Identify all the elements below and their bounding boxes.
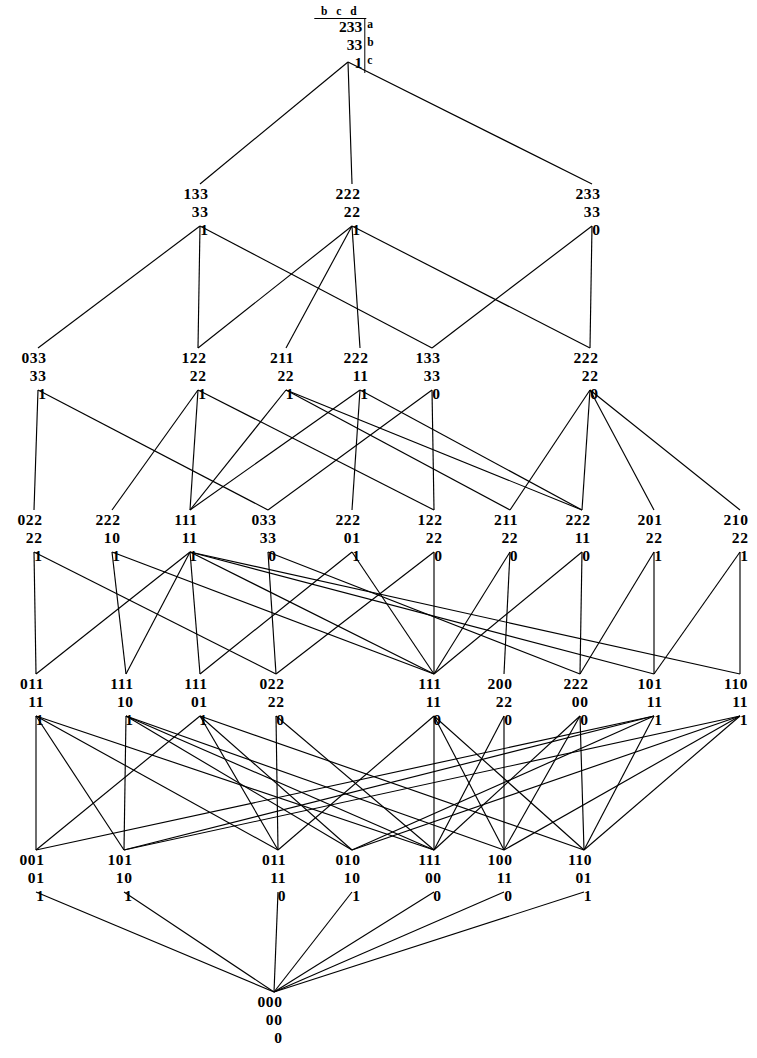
node-row-1: 22 [181, 368, 206, 386]
lattice-edge [112, 390, 198, 510]
node-row-1: 11 [343, 368, 368, 386]
node-matrix: 222221 [335, 186, 360, 240]
node-row-2: 0 [565, 548, 590, 566]
node-row-0: 111 [174, 512, 197, 530]
node-matrix: 022221 [17, 512, 42, 566]
node-row-2: 0 [251, 548, 276, 566]
node-row-1: 00 [257, 1012, 282, 1030]
lattice-edge [274, 892, 278, 992]
node-row-2: 1 [724, 712, 748, 730]
lattice-edge [286, 226, 352, 348]
node-row-2: 1 [343, 386, 368, 404]
lattice-edge [200, 716, 278, 850]
node-row-2: 0 [259, 712, 284, 730]
lattice-edge [348, 62, 592, 184]
node-row-0: 022 [17, 512, 42, 530]
node-row-1: 22 [270, 368, 294, 386]
matrix-column-header: b c d [314, 6, 366, 19]
node-row-2: 1 [19, 888, 44, 906]
lattice-edge [36, 716, 278, 850]
matrix-body: 233 33 1 a b c [314, 19, 373, 73]
lattice-edge [590, 226, 592, 348]
node-row-2: 1 [335, 888, 360, 906]
node-matrix: 010101 [335, 852, 360, 906]
node-row-1: 22 [17, 530, 42, 548]
node-row-2: 1 [107, 888, 132, 906]
lattice-edge [580, 552, 582, 674]
node-row-2: 1 [20, 712, 44, 730]
matrix-row-0: 233 [314, 19, 362, 37]
node-row-0: 222 [563, 676, 588, 694]
node-row-1: 33 [21, 368, 46, 386]
node-row-2: 0 [573, 386, 598, 404]
lattice-edge [360, 390, 582, 510]
lattice-edge [434, 552, 510, 674]
node-row-0: 222 [95, 512, 120, 530]
lattice-edge [36, 892, 274, 992]
node-row-1: 22 [487, 694, 512, 712]
lattice-edge [124, 716, 126, 850]
row-label-c: c [367, 55, 373, 73]
node-row-0: 101 [107, 852, 132, 870]
node-row-1: 11 [262, 870, 286, 888]
node-matrix: 222220 [573, 350, 598, 404]
node-row-2: 0 [494, 548, 518, 566]
lattice-edge [504, 716, 740, 850]
node-matrix: 033331 [21, 350, 46, 404]
lattice-edge [126, 716, 504, 850]
node-row-2: 1 [110, 712, 133, 730]
node-row-0: 033 [251, 512, 276, 530]
node-row-1: 33 [415, 368, 440, 386]
node-row-0: 001 [19, 852, 44, 870]
node-row-0: 010 [335, 852, 360, 870]
node-matrix: 022220 [259, 676, 284, 730]
node-row-1: 11 [724, 694, 748, 712]
row-label-a: a [367, 19, 373, 37]
node-row-1: 00 [563, 694, 588, 712]
lattice-edge [36, 552, 190, 674]
node-row-0: 100 [487, 852, 512, 870]
node-matrix: 111000 [418, 852, 441, 906]
node-matrix: 222111 [343, 350, 368, 404]
node-row-0: 122 [417, 512, 442, 530]
node-row-0: 000 [257, 994, 282, 1012]
lattice-edge [200, 716, 584, 850]
node-row-0: 111 [184, 676, 207, 694]
node-matrix: 222011 [335, 512, 360, 566]
lattice-edge [190, 552, 200, 674]
node-row-1: 11 [20, 694, 44, 712]
node-matrix: 111011 [184, 676, 207, 730]
lattice-edge [352, 226, 590, 348]
lattice-edge [200, 62, 348, 184]
node-matrix: 111101 [110, 676, 133, 730]
node-row-2: 0 [415, 386, 440, 404]
lattice-edge [268, 552, 580, 674]
matrix-values: 233 33 1 [314, 19, 365, 73]
lattice-edge [274, 892, 584, 992]
lattice-edge [274, 892, 352, 992]
node-row-2: 0 [257, 1030, 282, 1048]
node-row-0: 022 [259, 676, 284, 694]
lattice-edge [124, 892, 274, 992]
node-row-2: 0 [417, 548, 442, 566]
node-row-0: 011 [20, 676, 44, 694]
lattice-edge [198, 226, 200, 348]
node-row-1: 01 [184, 694, 207, 712]
node-matrix: 000000 [257, 994, 282, 1048]
lattice-edge [580, 552, 654, 674]
node-row-0: 133 [183, 186, 208, 204]
lattice-edge [352, 390, 360, 510]
lattice-edge [200, 226, 432, 348]
node-row-1: 10 [110, 694, 133, 712]
lattice-edge [34, 552, 276, 674]
node-row-0: 133 [415, 350, 440, 368]
node-row-2: 0 [418, 888, 441, 906]
node-row-1: 22 [573, 368, 598, 386]
node-row-1: 01 [335, 530, 360, 548]
node-row-2: 1 [184, 712, 207, 730]
lattice-edge [124, 716, 740, 850]
lattice-edge [112, 552, 126, 674]
lattice-edge [432, 226, 592, 348]
node-row-0: 222 [335, 512, 360, 530]
node-row-2: 1 [183, 222, 208, 240]
